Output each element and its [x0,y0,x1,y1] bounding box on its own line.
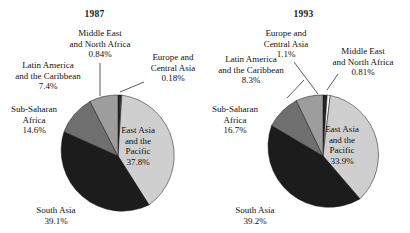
inner-eastasia-name-3-1993: Pacific [330,145,355,155]
callout-sub-saharan-1993: Sub-Saharan Africa 16.7% [197,104,273,136]
inner-label-east-asia-1987: East Asia and the Pacific 37.8% [105,125,171,167]
inner-eastasia-name-2-1993: and the [329,135,355,145]
callout-latin-america-1987: Latin America and the Caribbean 7.4% [0,60,98,92]
inner-eastasia-name-1-1993: East Asia [325,124,359,134]
callout-sub-saharan-1987: Sub-Saharan Africa 14.6% [0,104,70,136]
callout-latin-name-2-1987: and the Caribbean [15,71,80,81]
callout-subsaharan-value-1987: 14.6% [0,125,70,136]
callout-subsaharan-name-2-1993: Africa [224,115,247,125]
inner-eastasia-name-2-1987: and the [125,136,151,146]
callout-southasia-value-1993: 39.2% [215,216,295,227]
callout-south-asia-1987: South Asia 39.1% [16,205,96,226]
callout-subsaharan-name-1-1987: Sub-Saharan [11,104,57,114]
callout-subsaharan-name-2-1987: Africa [23,115,46,125]
callout-southasia-name-1987: South Asia [36,205,75,215]
chart-panel-1987: 1987 Middle East and North Afr [0,0,205,233]
inner-label-east-asia-1993: East Asia and the Pacific 33.9% [309,124,375,166]
callout-subsaharan-value-1993: 16.7% [197,125,273,136]
callout-south-asia-1993: South Asia 39.2% [215,205,295,226]
chart-panel-1993: 1993 Europe and Central Asia 1.1% [205,0,410,233]
inner-eastasia-name-3-1987: Pacific [126,146,151,156]
callout-subsaharan-name-1-1993: Sub-Saharan [212,104,258,114]
callout-latin-value-1987: 7.4% [0,81,98,92]
callout-southasia-value-1987: 39.1% [16,216,96,227]
callout-latin-name-1-1987: Latin America [22,60,74,70]
callout-southasia-name-1993: South Asia [235,205,274,215]
pie-chart-figure: 1987 Middle East and North Afr [0,0,410,233]
inner-eastasia-value-1993: 33.9% [330,156,353,166]
inner-eastasia-name-1-1987: East Asia [121,125,155,135]
inner-eastasia-value-1987: 37.8% [126,157,149,167]
